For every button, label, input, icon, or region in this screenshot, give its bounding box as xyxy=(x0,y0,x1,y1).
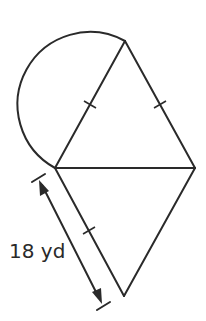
lower-right-side xyxy=(124,168,195,296)
semicircle-arc xyxy=(18,32,125,168)
dimension-cap-bottom xyxy=(97,302,110,310)
tick-mark-upper-right xyxy=(154,101,166,108)
dimension-label: 18 yd xyxy=(9,239,65,263)
arrowhead-up-icon xyxy=(39,180,49,196)
dimension-cap-top xyxy=(32,174,45,182)
arrowhead-down-icon xyxy=(92,288,102,304)
geometry-diagram: 18 yd xyxy=(0,0,206,321)
tick-mark-upper-left xyxy=(84,101,96,108)
